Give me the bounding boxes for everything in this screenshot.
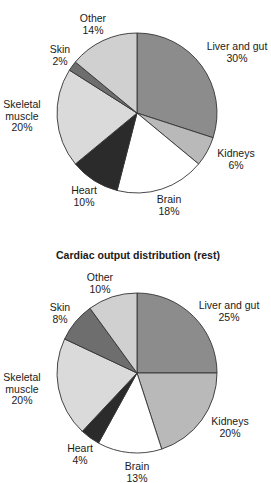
pie-slices <box>57 33 217 193</box>
slice-label-skin: Skin8% <box>50 301 71 325</box>
slice-label-other: Other14% <box>80 12 107 36</box>
slice-label-brain: Brain18% <box>157 193 182 217</box>
slice-label-kidneys: Kidneys20% <box>211 415 248 439</box>
slice-label-brain: Brain13% <box>125 460 150 483</box>
slice-label-skin: Skin2% <box>50 43 71 67</box>
chart-title: Cardiac output distribution (rest) <box>56 249 220 261</box>
slice-label-skeletal-muscle: Skeletalmuscle20% <box>3 371 40 406</box>
pie-chart-rest: Cardiac output distribution (rest) Liver… <box>3 249 259 483</box>
pie-slices <box>57 293 217 453</box>
slice-label-other: Other10% <box>87 271 114 295</box>
slice-label-skeletal-muscle: Skeletalmuscle20% <box>3 98 40 133</box>
pie-chart-exercise: Liver and gut30%Kidneys6%Brain18%Heart10… <box>3 12 267 217</box>
slice-label-liver-and-gut: Liver and gut30% <box>207 40 268 64</box>
slice-label-liver-and-gut: Liver and gut25% <box>199 299 260 323</box>
slice-label-heart: Heart4% <box>67 442 93 466</box>
slice-label-heart: Heart10% <box>71 184 97 208</box>
chart-canvas: Liver and gut30%Kidneys6%Brain18%Heart10… <box>0 0 271 483</box>
slice-label-kidneys: Kidneys6% <box>217 147 254 171</box>
